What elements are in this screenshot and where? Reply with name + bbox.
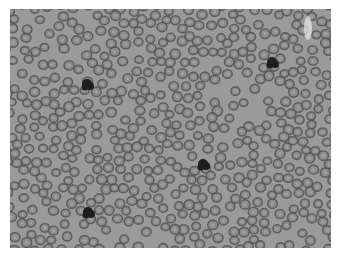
micrograph-canvas [10,9,331,248]
blood-smear-image [10,9,331,248]
